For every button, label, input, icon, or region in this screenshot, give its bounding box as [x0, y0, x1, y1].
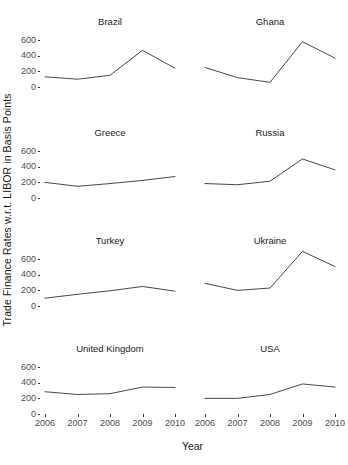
- y-axis-row-0: 0200400600: [10, 30, 36, 87]
- plot-area: [200, 249, 340, 306]
- plot-area: [40, 357, 180, 414]
- facet-panel-ghana: Ghana: [200, 16, 340, 87]
- plot-area: [40, 249, 180, 306]
- series-line: [205, 159, 335, 185]
- x-tick-label: 2009: [290, 419, 316, 428]
- facet-title: Ghana: [200, 16, 340, 27]
- plot-area: [40, 141, 180, 198]
- y-tick-label: 600: [10, 36, 36, 45]
- facet-panel-greece: Greece: [40, 127, 180, 198]
- y-tick-mark: [38, 383, 41, 384]
- plot-area: [200, 357, 340, 414]
- y-tick-label: 400: [10, 270, 36, 279]
- x-tick-mark: [270, 414, 271, 417]
- facet-title: USA: [200, 343, 340, 354]
- series-line: [205, 251, 335, 290]
- y-tick-mark: [38, 398, 41, 399]
- facet-panel-brazil: Brazil: [40, 16, 180, 87]
- x-tick-label: 2006: [192, 419, 218, 428]
- x-tick-label: 2010: [162, 419, 188, 428]
- facet-title: Ukraine: [200, 235, 340, 246]
- y-tick-mark: [38, 56, 41, 57]
- y-tick-label: 200: [10, 178, 36, 187]
- y-tick-mark: [38, 71, 41, 72]
- y-tick-label: 0: [10, 410, 36, 419]
- y-tick-label: 400: [10, 162, 36, 171]
- x-tick-mark: [110, 414, 111, 417]
- series-line: [45, 50, 175, 79]
- y-tick-label: 400: [10, 378, 36, 387]
- y-tick-label: 400: [10, 51, 36, 60]
- y-tick-mark: [38, 40, 41, 41]
- facet-title: Turkey: [40, 235, 180, 246]
- series-line: [45, 177, 175, 187]
- y-tick-label: 600: [10, 147, 36, 156]
- x-tick-mark: [335, 414, 336, 417]
- y-tick-label: 600: [10, 255, 36, 264]
- series-line: [205, 384, 335, 398]
- facet-title: United Kingdom: [40, 343, 180, 354]
- y-tick-mark: [38, 367, 41, 368]
- x-tick-mark: [238, 414, 239, 417]
- x-tick-label: 2007: [225, 419, 251, 428]
- y-tick-mark: [38, 167, 41, 168]
- x-tick-label: 2010: [322, 419, 348, 428]
- plot-area: [200, 30, 340, 87]
- x-tick-mark: [143, 414, 144, 417]
- facet-panel-united-kingdom: United Kingdom: [40, 343, 180, 414]
- facet-panel-russia: Russia: [200, 127, 340, 198]
- y-axis-row-2: 0200400600: [10, 249, 36, 306]
- y-axis-row-3: 0200400600: [10, 357, 36, 414]
- series-line: [45, 286, 175, 298]
- y-tick-mark: [38, 87, 41, 88]
- y-tick-mark: [38, 198, 41, 199]
- y-tick-label: 0: [10, 194, 36, 203]
- facet-title: Greece: [40, 127, 180, 138]
- y-tick-mark: [38, 151, 41, 152]
- facet-panel-usa: USA: [200, 343, 340, 414]
- facet-panel-turkey: Turkey: [40, 235, 180, 306]
- x-tick-label: 2008: [257, 419, 283, 428]
- x-tick-label: 2008: [97, 419, 123, 428]
- series-line: [205, 42, 335, 83]
- y-tick-label: 0: [10, 302, 36, 311]
- y-tick-label: 0: [10, 83, 36, 92]
- plot-area: [200, 141, 340, 198]
- x-tick-label: 2006: [32, 419, 58, 428]
- x-tick-mark: [45, 414, 46, 417]
- y-axis-row-1: 0200400600: [10, 141, 36, 198]
- y-tick-mark: [38, 275, 41, 276]
- x-tick-label: 2007: [65, 419, 91, 428]
- x-axis-title: Year: [40, 440, 345, 452]
- x-tick-mark: [205, 414, 206, 417]
- y-tick-label: 200: [10, 394, 36, 403]
- y-tick-mark: [38, 290, 41, 291]
- y-tick-mark: [38, 414, 41, 415]
- x-tick-mark: [78, 414, 79, 417]
- y-tick-mark: [38, 306, 41, 307]
- x-tick-mark: [175, 414, 176, 417]
- x-tick-mark: [303, 414, 304, 417]
- y-tick-label: 200: [10, 286, 36, 295]
- x-tick-label: 2009: [130, 419, 156, 428]
- facet-panel-ukraine: Ukraine: [200, 235, 340, 306]
- y-tick-mark: [38, 182, 41, 183]
- series-line: [45, 387, 175, 394]
- y-tick-label: 200: [10, 67, 36, 76]
- plot-area: [40, 30, 180, 87]
- facet-title: Russia: [200, 127, 340, 138]
- y-tick-label: 600: [10, 363, 36, 372]
- y-tick-mark: [38, 259, 41, 260]
- facet-title: Brazil: [40, 16, 180, 27]
